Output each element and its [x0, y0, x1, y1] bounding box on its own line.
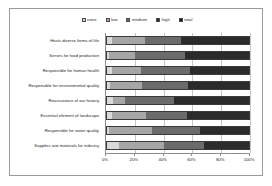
bar-segment-high[interactable] — [200, 126, 250, 135]
bar-row[interactable] — [106, 81, 250, 90]
legend-swatch-none — [82, 18, 86, 22]
bar-segment-medium[interactable] — [135, 51, 185, 60]
bar-segment-high[interactable] — [174, 96, 250, 105]
bar-segment-low[interactable] — [109, 126, 152, 135]
category-label: Responsible for water quality — [10, 126, 102, 135]
category-label: Responsible for environmental quality — [10, 81, 102, 90]
bar-row[interactable] — [106, 126, 250, 135]
legend-entry-medium[interactable]: medium — [126, 17, 147, 22]
bar-row[interactable] — [106, 111, 250, 120]
bar-segment-low[interactable] — [112, 66, 141, 75]
bar-segment-low[interactable] — [110, 81, 142, 90]
bar-series-group — [106, 33, 250, 153]
bar-segment-low[interactable] — [113, 96, 125, 105]
bar-row[interactable] — [106, 141, 250, 150]
x-axis-tick-label: 60% — [187, 157, 195, 162]
legend-label-high: high — [162, 17, 170, 22]
bar-row[interactable] — [106, 96, 250, 105]
legend-entry-none[interactable]: none — [82, 17, 97, 22]
x-axis: 0%20%40%60%80%100% — [105, 154, 249, 164]
bar-segment-medium[interactable] — [152, 126, 200, 135]
bar-segment-none[interactable] — [106, 141, 119, 150]
category-label: Hosts diverse forms of life — [10, 36, 102, 45]
bar-row[interactable] — [106, 66, 250, 75]
category-label: Serves for food production — [10, 51, 102, 60]
bar-segment-medium[interactable] — [141, 66, 190, 75]
x-axis-tick-label: 80% — [216, 157, 224, 162]
gridline — [250, 33, 251, 153]
bar-segment-high[interactable] — [187, 111, 250, 120]
bar-segment-medium[interactable] — [146, 111, 186, 120]
chart-legend: nonelowmediumhightotal — [10, 17, 264, 22]
category-label: Supplies raw materials for industry — [10, 141, 102, 150]
legend-entry-high[interactable]: high — [156, 17, 170, 22]
legend-entry-total[interactable]: total — [179, 17, 193, 22]
bar-segment-high[interactable] — [181, 36, 250, 45]
bar-segment-medium[interactable] — [142, 81, 188, 90]
category-label: Reassurance of our history — [10, 96, 102, 105]
bar-segment-none[interactable] — [106, 96, 113, 105]
legend-swatch-medium — [126, 18, 130, 22]
plot-area — [105, 33, 250, 154]
bar-segment-medium[interactable] — [145, 36, 181, 45]
bar-segment-medium[interactable] — [164, 141, 204, 150]
category-label: Essential element of landscape — [10, 111, 102, 120]
bar-segment-high[interactable] — [190, 66, 250, 75]
x-axis-tick-label: 20% — [130, 157, 138, 162]
legend-swatch-total — [179, 18, 183, 22]
bar-segment-medium[interactable] — [125, 96, 174, 105]
category-axis-labels: Hosts diverse forms of lifeServes for fo… — [10, 33, 102, 153]
legend-swatch-high — [156, 18, 160, 22]
bar-segment-low[interactable] — [109, 51, 135, 60]
bar-segment-low[interactable] — [119, 141, 164, 150]
bar-segment-high[interactable] — [204, 141, 250, 150]
bar-segment-high[interactable] — [185, 51, 250, 60]
x-axis-tick-label: 100% — [244, 157, 255, 162]
legend-label-none: none — [87, 17, 97, 22]
x-axis-tick-label: 40% — [158, 157, 166, 162]
bar-segment-low[interactable] — [112, 36, 145, 45]
chart-frame: nonelowmediumhightotal Hosts diverse for… — [9, 8, 263, 176]
legend-entry-low[interactable]: low — [106, 17, 118, 22]
legend-label-total: total — [184, 17, 192, 22]
bar-row[interactable] — [106, 36, 250, 45]
legend-label-medium: medium — [132, 17, 147, 22]
bar-row[interactable] — [106, 51, 250, 60]
x-axis-tick-label: 0% — [102, 157, 108, 162]
legend-label-low: low — [111, 17, 117, 22]
bar-segment-low[interactable] — [112, 111, 147, 120]
legend-swatch-low — [106, 18, 110, 22]
category-label: Responsible for human health — [10, 66, 102, 75]
bar-segment-high[interactable] — [188, 81, 250, 90]
